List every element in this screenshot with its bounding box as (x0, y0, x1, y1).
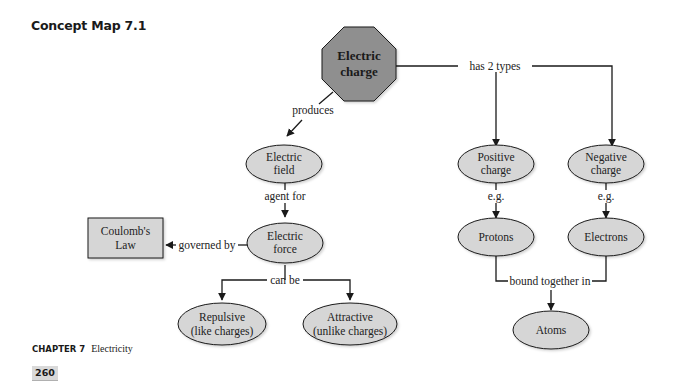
node-protons: Protons (458, 218, 534, 256)
svg-text:Coulomb's: Coulomb's (101, 225, 151, 237)
svg-text:Negative: Negative (585, 151, 627, 164)
svg-text:Electric: Electric (267, 230, 303, 242)
svg-text:Law: Law (115, 239, 136, 251)
svg-text:(like charges): (like charges) (191, 325, 254, 338)
svg-text:charge: charge (481, 164, 511, 177)
node-positive-charge: Positive charge (458, 145, 534, 183)
svg-text:Positive: Positive (477, 151, 514, 163)
page-number-badge: 260 (32, 366, 58, 381)
connector-produces-top (319, 92, 333, 104)
node-coulombs-law: Coulomb's Law (88, 218, 163, 258)
svg-text:Electric: Electric (337, 48, 381, 63)
link-label-eg-negative: e.g. (598, 190, 615, 203)
chapter-label: CHAPTER 7 (32, 344, 85, 354)
link-label-eg-positive: e.g. (488, 190, 505, 203)
connector-produces-arrow (287, 120, 302, 136)
link-label-can-be: can be (270, 274, 300, 286)
node-electrons: Electrons (568, 218, 644, 256)
svg-text:Repulsive: Repulsive (199, 311, 245, 324)
link-label-bound-together-in: bound together in (509, 275, 590, 288)
node-negative-charge: Negative charge (568, 145, 644, 183)
svg-text:field: field (273, 164, 294, 176)
connector-bound-right (592, 256, 606, 281)
chapter-name: Electricity (91, 343, 133, 354)
svg-text:Attractive: Attractive (327, 311, 373, 323)
connector-to-repulsive (222, 280, 267, 300)
node-electric-field: Electric field (246, 145, 322, 183)
link-label-produces: produces (292, 104, 334, 117)
link-label-agent-for: agent for (264, 190, 305, 203)
node-repulsive: Repulsive (like charges) (178, 303, 266, 345)
link-label-has-2-types: has 2 types (469, 60, 521, 73)
chapter-footer: CHAPTER 7Electricity (32, 343, 133, 354)
svg-text:Electric: Electric (266, 151, 302, 163)
connector-to-negative (532, 66, 612, 146)
svg-text:force: force (273, 243, 297, 255)
node-atoms: Atoms (513, 311, 589, 349)
svg-text:(unlike charges): (unlike charges) (313, 325, 387, 338)
connector-to-attractive (303, 280, 350, 300)
svg-text:Protons: Protons (478, 231, 514, 243)
link-label-governed-by: governed by (178, 239, 235, 252)
svg-text:charge: charge (340, 64, 378, 79)
svg-text:Atoms: Atoms (536, 324, 567, 336)
svg-text:charge: charge (591, 164, 621, 177)
node-attractive: Attractive (unlike charges) (303, 303, 397, 345)
connector-bound-left (496, 256, 508, 281)
node-electric-charge: Electric charge (322, 27, 396, 101)
node-electric-force: Electric force (247, 223, 323, 263)
svg-text:Electrons: Electrons (584, 231, 628, 243)
